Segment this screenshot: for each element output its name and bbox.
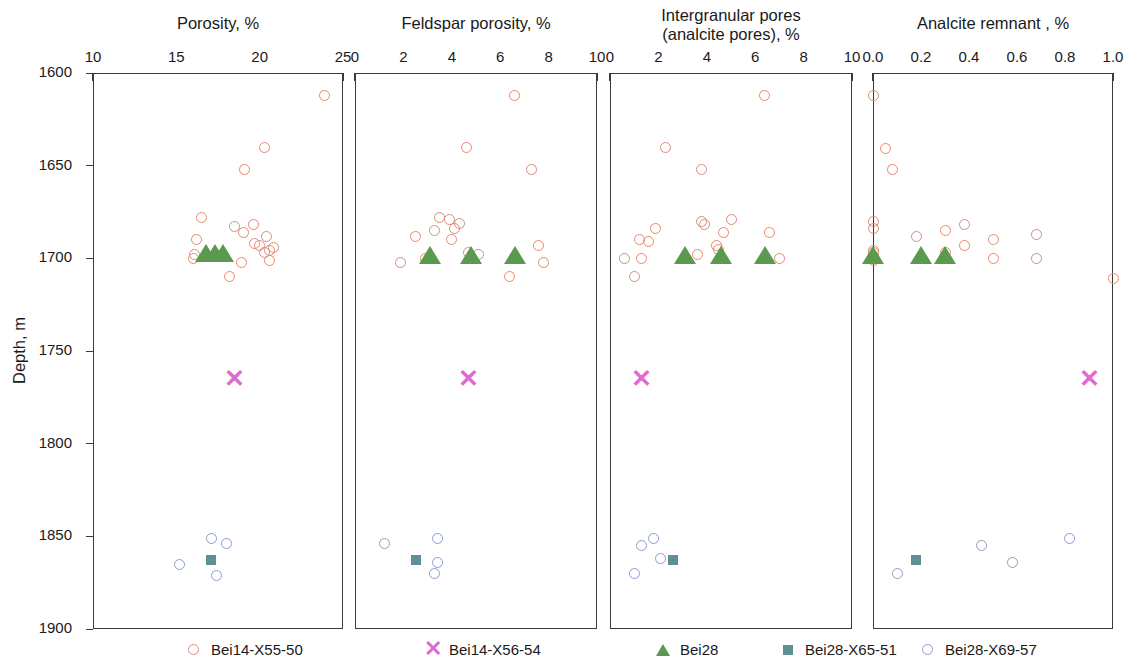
y-tick-mark bbox=[86, 443, 93, 444]
data-point-filled-triangle bbox=[862, 246, 884, 264]
data-point-open-circle bbox=[911, 231, 922, 242]
legend-item-bei14-x56-54[interactable]: ✕Bei14-X56-54 bbox=[424, 638, 541, 660]
data-point-filled-triangle bbox=[419, 246, 441, 264]
x-tick-label: 0.4 bbox=[944, 48, 994, 65]
y-tick-label: 1900 bbox=[26, 619, 72, 636]
y-tick-mark bbox=[86, 258, 93, 259]
data-point-open-circle bbox=[976, 540, 987, 551]
y-tick-mark bbox=[86, 165, 93, 166]
legend-label: Bei28 bbox=[680, 641, 718, 658]
legend-item-bei14-x55-50[interactable]: Bei14-X55-50 bbox=[186, 638, 303, 660]
data-point-filled-square bbox=[411, 555, 421, 565]
data-point-open-circle bbox=[1031, 229, 1042, 240]
y-tick-mark bbox=[86, 351, 93, 352]
data-point-open-circle bbox=[868, 90, 879, 101]
x-tick-label: 4 bbox=[427, 48, 477, 65]
x-tick-label: 0.2 bbox=[896, 48, 946, 65]
data-point-open-circle bbox=[940, 225, 951, 236]
data-point-cross: ✕ bbox=[627, 366, 655, 391]
data-point-open-circle bbox=[238, 227, 249, 238]
x-tick-label: 0.8 bbox=[1040, 48, 1090, 65]
data-point-open-circle bbox=[887, 164, 898, 175]
data-point-open-circle bbox=[526, 164, 537, 175]
data-point-filled-square bbox=[911, 555, 921, 565]
data-point-open-circle bbox=[1108, 273, 1119, 284]
legend-label: Bei14-X55-50 bbox=[211, 641, 303, 658]
y-tick-label: 1600 bbox=[26, 63, 72, 80]
data-point-open-circle bbox=[432, 533, 443, 544]
data-point-filled-square bbox=[206, 555, 216, 565]
plot-frame-2 bbox=[355, 73, 597, 629]
x-tick-label: 8 bbox=[524, 48, 574, 65]
x-tick-label: 15 bbox=[151, 48, 201, 65]
data-point-open-circle bbox=[221, 538, 232, 549]
data-point-open-circle bbox=[660, 142, 671, 153]
data-point-open-circle bbox=[988, 234, 999, 245]
data-point-open-circle bbox=[1064, 533, 1075, 544]
data-point-open-circle bbox=[959, 240, 970, 251]
data-point-open-circle bbox=[259, 142, 270, 153]
y-tick-mark bbox=[86, 629, 93, 630]
plot-frame-4 bbox=[873, 73, 1113, 629]
x-tick-label: 0.6 bbox=[992, 48, 1042, 65]
data-point-filled-triangle bbox=[504, 246, 526, 264]
y-tick-label: 1650 bbox=[26, 156, 72, 173]
x-tick-label: 10 bbox=[68, 48, 118, 65]
y-tick-label: 1750 bbox=[26, 341, 72, 358]
legend-label: Bei14-X56-54 bbox=[449, 641, 541, 658]
x-tick-label: 0.0 bbox=[848, 48, 898, 65]
data-point-filled-triangle bbox=[710, 246, 732, 264]
data-point-filled-triangle bbox=[674, 246, 696, 264]
data-point-filled-triangle bbox=[910, 246, 932, 264]
data-point-open-circle bbox=[196, 212, 207, 223]
chart-legend: Bei14-X55-50✕Bei14-X56-54Bei28Bei28-X65-… bbox=[0, 636, 1123, 662]
data-point-open-circle bbox=[206, 533, 217, 544]
plot-frame-1 bbox=[93, 73, 343, 629]
cross-icon: ✕ bbox=[424, 641, 440, 657]
data-point-open-circle bbox=[880, 143, 891, 154]
legend-item-bei28[interactable]: Bei28 bbox=[655, 638, 718, 660]
data-point-open-circle bbox=[636, 253, 647, 264]
x-tick-label: 2 bbox=[633, 48, 683, 65]
data-point-filled-triangle bbox=[212, 244, 234, 262]
data-point-open-circle bbox=[395, 257, 406, 268]
y-tick-label: 1850 bbox=[26, 526, 72, 543]
legend-item-bei28-x69-57[interactable]: Bei28-X69-57 bbox=[920, 638, 1037, 660]
data-point-filled-triangle bbox=[934, 246, 956, 264]
panel-title-4: Analcite remnant , % bbox=[833, 14, 1128, 33]
legend-item-bei28-x65-51[interactable]: Bei28-X65-51 bbox=[780, 638, 897, 660]
x-tick-label: 8 bbox=[779, 48, 829, 65]
data-point-open-circle bbox=[636, 540, 647, 551]
data-point-open-circle bbox=[726, 214, 737, 225]
open-circle-icon bbox=[920, 641, 936, 657]
square-icon bbox=[780, 641, 796, 657]
data-point-open-circle bbox=[248, 219, 259, 230]
data-point-open-circle bbox=[410, 231, 421, 242]
data-point-filled-square bbox=[668, 555, 678, 565]
x-tick-label: 6 bbox=[730, 48, 780, 65]
data-point-open-circle bbox=[988, 253, 999, 264]
x-tick-label: 0 bbox=[585, 48, 635, 65]
data-point-open-circle bbox=[1031, 253, 1042, 264]
data-point-open-circle bbox=[432, 557, 443, 568]
data-point-open-circle bbox=[379, 538, 390, 549]
y-tick-mark bbox=[86, 536, 93, 537]
y-tick-label: 1800 bbox=[26, 434, 72, 451]
data-point-open-circle bbox=[236, 257, 247, 268]
open-circle-icon bbox=[186, 641, 202, 657]
data-point-open-circle bbox=[268, 242, 279, 253]
data-point-filled-triangle bbox=[460, 246, 482, 264]
data-point-open-circle bbox=[509, 90, 520, 101]
data-point-open-circle bbox=[648, 533, 659, 544]
x-tick-label: 20 bbox=[235, 48, 285, 65]
y-tick-label: 1700 bbox=[26, 248, 72, 265]
legend-label: Bei28-X65-51 bbox=[805, 641, 897, 658]
x-tick-label: 0 bbox=[330, 48, 380, 65]
legend-label: Bei28-X69-57 bbox=[945, 641, 1037, 658]
data-point-open-circle bbox=[892, 568, 903, 579]
data-point-open-circle bbox=[629, 271, 640, 282]
x-tick-label: 1.0 bbox=[1088, 48, 1128, 65]
data-point-cross: ✕ bbox=[1075, 366, 1103, 391]
data-point-open-circle bbox=[619, 253, 630, 264]
